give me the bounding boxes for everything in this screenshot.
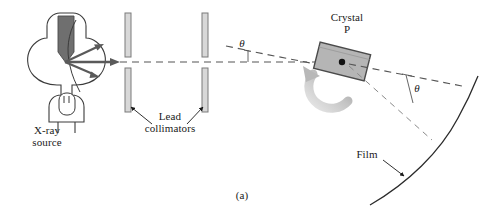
film-arc [370,76,478,205]
label-crystal: Crystal P [311,11,383,36]
collimator-plate-1-bottom [125,68,131,112]
crystal-center-dot [339,59,345,65]
xray-diffraction-figure: X-ray source Lead collimators Crystal P … [0,0,484,215]
filament-cathode-housing [59,93,75,115]
label-xray-source: X-ray source [8,124,86,149]
diffracted-ray-lower-dashed [349,66,432,140]
label-lead-collimators: Lead collimators [120,110,220,135]
label-film: Film [348,148,386,160]
leader-line-film [383,160,404,176]
label-theta-reflected: θ [411,82,423,94]
theta-2-cap [402,74,412,76]
x-ray-tube-envelope [28,13,106,133]
collimator-plate-2-top [202,13,208,57]
angled-anode-target [58,16,74,63]
figure-canvas [0,0,484,215]
collimator-plate-1-top [125,13,131,57]
figure-caption: (a) [214,189,270,201]
collimator-plate-2-bottom [202,68,208,112]
label-theta-incident: θ [236,37,248,49]
